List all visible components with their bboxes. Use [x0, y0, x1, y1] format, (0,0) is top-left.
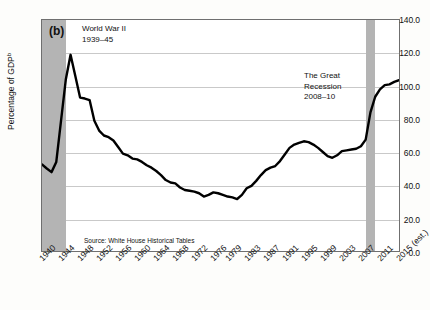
panel-label: (b) [49, 24, 64, 38]
y-tick-20: 20.0 [382, 215, 420, 225]
y-axis-title-superscript: b [6, 53, 12, 56]
annotation-world-war-ii: World War II 1939–45 [82, 24, 126, 45]
y-tick-140: 140.0 [382, 15, 420, 25]
y-tick-40: 40.0 [382, 181, 420, 191]
debt-series-svg [42, 20, 399, 251]
annotation-wwii-line2: 1939–45 [82, 35, 126, 46]
annotation-recession-line1: The Great [304, 71, 341, 82]
y-axis-title: Percentage of GDPb [6, 36, 17, 146]
debt-gdp-line [42, 55, 399, 199]
plot-area [41, 19, 400, 252]
y-tick-100: 100.0 [382, 82, 420, 92]
y-tick-60: 60.0 [382, 148, 420, 158]
y-tick-80: 80.0 [382, 115, 420, 125]
annotation-wwii-line1: World War II [82, 24, 126, 35]
annotation-recession-line3: 2008–10 [304, 92, 341, 103]
source-note: Source: White House Historical Tables [84, 237, 194, 244]
y-axis-title-text: Percentage of GDP [6, 56, 16, 130]
annotation-great-recession: The Great Recession 2008–10 [304, 71, 341, 103]
annotation-recession-line2: Recession [304, 82, 341, 93]
y-tick-120: 120.0 [382, 48, 420, 58]
